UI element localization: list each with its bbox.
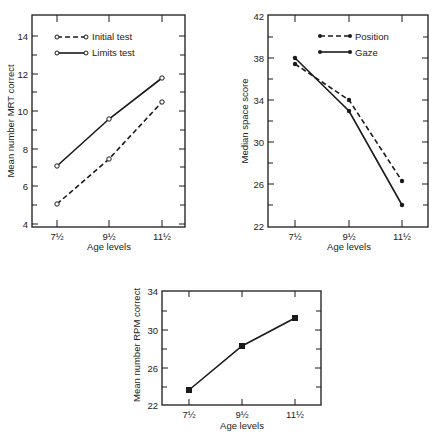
- y-tick-label: 14: [17, 31, 28, 42]
- y-tick-label: 4: [23, 219, 28, 230]
- legend: Position Gaze: [318, 31, 389, 58]
- x-ticks: [295, 15, 402, 227]
- y-axis-title: Median space score: [239, 78, 250, 163]
- y-tick-label: 30: [253, 137, 264, 148]
- chart-rpm: 22 26 30 34 7½ 9½ 11½ Age levels Mean nu…: [131, 286, 321, 431]
- x-tick-label: 11½: [286, 409, 304, 420]
- markers: [293, 56, 404, 207]
- series-gaze: [295, 58, 402, 205]
- y-tick-label: 26: [253, 179, 264, 190]
- y-tick-label: 38: [253, 53, 264, 64]
- x-tick-label: 7½: [50, 231, 63, 242]
- chart-space-score: 22 26 30 34 38 42 7½ 9½ 11½ Age levels M…: [239, 11, 428, 252]
- y-tick-label: 42: [253, 11, 264, 22]
- chart-mrt: 4 6 8 10 12 14 7½ 9½ 11½ Age levels Mean…: [5, 15, 185, 252]
- series-position: [295, 64, 402, 181]
- markers: [55, 76, 164, 206]
- y-ticks: [268, 37, 428, 205]
- x-tick-label: 7½: [288, 231, 301, 242]
- x-tick-label: 11½: [393, 231, 411, 242]
- x-tick-label: 11½: [153, 231, 171, 242]
- legend-position: Position: [355, 31, 389, 42]
- markers: [186, 315, 298, 393]
- x-axis-title: Age levels: [220, 420, 264, 431]
- y-axis-title: Mean number RPM correct: [131, 288, 142, 402]
- legend: Initial test Limits test: [55, 31, 135, 58]
- y-tick-label: 22: [147, 400, 158, 411]
- y-tick-label: 30: [147, 325, 158, 336]
- y-tick-label: 8: [23, 144, 28, 155]
- y-tick-label: 26: [147, 363, 158, 374]
- y-tick-label: 34: [253, 95, 264, 106]
- x-tick-label: 7½: [182, 409, 195, 420]
- y-tick-label: 12: [17, 69, 28, 80]
- y-tick-label: 34: [147, 286, 158, 297]
- y-tick-label: 22: [253, 221, 264, 232]
- y-tick-label: 6: [23, 181, 28, 192]
- legend-limits-test: Limits test: [92, 47, 135, 58]
- x-axis-title: Age levels: [87, 241, 131, 252]
- x-tick-label: 9½: [235, 409, 248, 420]
- x-axis-title: Age levels: [327, 241, 371, 252]
- plot-frame: [268, 15, 428, 227]
- y-axis-title: Mean number MRT correct: [5, 64, 16, 178]
- series-limits-test: [57, 78, 162, 166]
- figure: 4 6 8 10 12 14 7½ 9½ 11½ Age levels Mean…: [0, 0, 437, 443]
- legend-initial-test: Initial test: [92, 31, 132, 42]
- series-rpm: [189, 318, 295, 390]
- y-tick-label: 10: [17, 106, 28, 117]
- legend-gaze: Gaze: [355, 47, 378, 58]
- y-ticks: [32, 36, 185, 224]
